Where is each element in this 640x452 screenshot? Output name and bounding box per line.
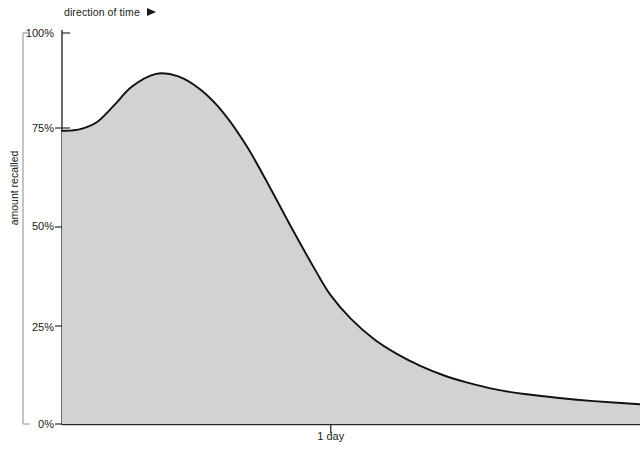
forgetting-curve-chart: direction of time amount recalled 100% 7… xyxy=(0,0,640,452)
axis-range-bracket xyxy=(23,33,30,424)
chart-plot-svg xyxy=(0,0,640,452)
area-fill-region xyxy=(62,73,640,424)
